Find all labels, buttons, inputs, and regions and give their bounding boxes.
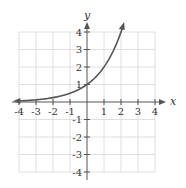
y-tick-label: -1 — [72, 114, 82, 125]
x-axis-arrow-icon — [159, 99, 166, 105]
x-axis-label: x — [170, 95, 177, 108]
curve-right-arrow-icon — [119, 22, 125, 30]
x-tick-label: 3 — [135, 106, 141, 117]
x-tick-label: 2 — [118, 106, 124, 117]
y-tick-label: 4 — [76, 27, 82, 38]
y-tick-label: -4 — [72, 167, 82, 178]
x-tick-label: -4 — [14, 106, 24, 117]
x-tick-label: 1 — [101, 106, 107, 117]
y-tick-label: 3 — [76, 44, 82, 55]
x-tick-label: -3 — [31, 106, 41, 117]
y-axis-arrow-icon — [84, 22, 90, 29]
chart: x y -4-3-2-11234 4321-1-2-3-4 — [0, 0, 186, 188]
x-tick-label: -2 — [48, 106, 58, 117]
y-tick-label: -2 — [72, 132, 82, 143]
x-tick-label: 4 — [152, 106, 158, 117]
curve-left-arrow-icon — [13, 98, 20, 104]
y-tick-label: 2 — [76, 62, 82, 73]
y-tick-label: -3 — [72, 149, 82, 160]
y-axis-label: y — [83, 9, 91, 22]
